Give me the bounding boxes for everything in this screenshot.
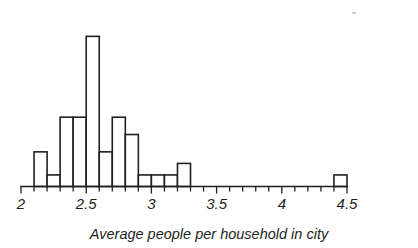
x-tick-label: 3.5 [206, 195, 228, 212]
histogram-bar [47, 175, 60, 187]
histogram-bar [112, 117, 125, 186]
histogram-bar [99, 152, 112, 187]
x-tick-label: 2.5 [75, 195, 98, 212]
histogram-figure: 22.533.544.5 Average people per househol… [0, 0, 418, 248]
histogram-svg: 22.533.544.5 Average people per househol… [0, 0, 418, 248]
histogram-bar [164, 175, 177, 187]
x-axis-label: Average people per household in city [89, 226, 329, 242]
histogram-bar [60, 117, 73, 186]
histogram-bar [138, 175, 151, 187]
histogram-bar [151, 175, 164, 187]
x-tick-label: 3 [147, 195, 156, 212]
histogram-bar [86, 36, 99, 186]
histogram-bar [34, 152, 47, 187]
histogram-bar [334, 175, 347, 187]
histogram-bar [125, 135, 138, 187]
histogram-bar [177, 163, 190, 186]
decorative-speck [352, 12, 356, 14]
histogram-bar [73, 117, 86, 186]
x-tick-label: 4 [278, 195, 286, 212]
x-tick-label: 4.5 [337, 195, 359, 212]
x-tick-label: 2 [16, 195, 26, 212]
